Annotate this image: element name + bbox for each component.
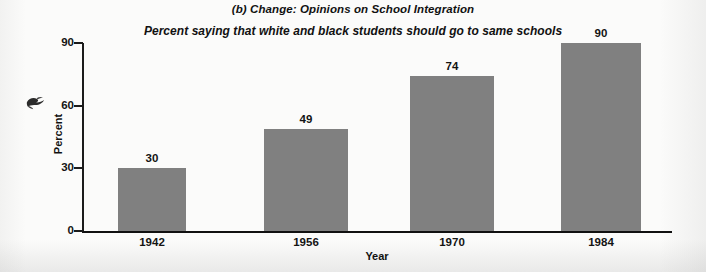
x-axis-tick-label-1970: 1970	[410, 236, 494, 248]
bar-value-label-1984: 90	[561, 27, 641, 39]
bar-1970	[410, 76, 494, 231]
bar-1984	[561, 43, 641, 231]
x-axis-line	[82, 231, 672, 233]
bar-1956	[264, 129, 348, 231]
y-axis-tick	[74, 167, 83, 169]
y-axis-tick	[74, 42, 83, 44]
chart-page: (b) Change: Opinions on School Integrati…	[0, 0, 706, 272]
y-axis-tick	[74, 105, 83, 107]
x-axis-tick-label-1956: 1956	[264, 236, 348, 248]
y-axis-tick-label: 0	[34, 224, 74, 236]
bar-chart-plot-area: 0306090 Percent 301942491956741970901984…	[0, 0, 706, 272]
y-axis-title: Percent	[52, 104, 64, 164]
bar-value-label-1970: 74	[410, 60, 494, 72]
x-axis-tick-label-1984: 1984	[561, 236, 641, 248]
y-axis-tick-label: 90	[34, 36, 74, 48]
x-axis-title: Year	[82, 250, 672, 262]
bar-1942	[118, 168, 186, 231]
bar-value-label-1956: 49	[264, 113, 348, 125]
y-axis-tick	[74, 230, 83, 232]
y-axis-line	[82, 43, 84, 233]
x-axis-tick-label-1942: 1942	[118, 236, 186, 248]
bar-value-label-1942: 30	[118, 152, 186, 164]
